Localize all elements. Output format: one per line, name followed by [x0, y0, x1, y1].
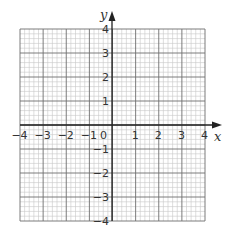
x-tick-label: 3 [178, 129, 185, 142]
x-tick-label: 2 [155, 129, 162, 142]
x-tick-label: −1 [81, 129, 97, 142]
y-axis-label: y [99, 7, 108, 22]
y-tick-label: 3 [102, 47, 109, 60]
y-tick-label: 2 [102, 71, 109, 84]
coordinate-grid: x y 0 −4−3−2−11234 4321−1−2−3−4 [0, 0, 228, 230]
origin-label: 0 [100, 129, 107, 142]
x-tick-label: −4 [11, 129, 27, 142]
y-tick-label: 4 [102, 23, 109, 36]
x-tick-label: 1 [132, 129, 139, 142]
y-tick-label: −4 [93, 215, 109, 228]
y-tick-label: 1 [102, 95, 109, 108]
axes [20, 11, 222, 221]
x-axis-arrow-icon [212, 122, 222, 129]
x-tick-label: 4 [201, 129, 208, 142]
x-tick-label: −3 [35, 129, 51, 142]
x-tick-labels: −4−3−2−11234 [11, 129, 208, 142]
x-tick-label: −2 [58, 129, 74, 142]
y-tick-label: −2 [93, 167, 109, 180]
y-axis-arrow-icon [109, 11, 116, 21]
y-tick-label: −1 [93, 143, 109, 156]
x-axis-label: x [214, 129, 222, 144]
y-tick-label: −3 [93, 191, 109, 204]
